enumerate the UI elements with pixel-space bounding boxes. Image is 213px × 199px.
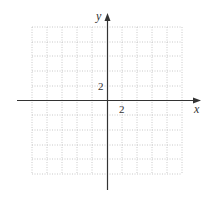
y-tick-label: 2 [98, 80, 104, 92]
y-axis-arrow-icon [105, 13, 111, 21]
coordinate-plane: x y 2 2 [0, 0, 213, 199]
y-axis-label: y [95, 9, 102, 23]
x-axis [17, 98, 201, 104]
y-axis [105, 13, 111, 190]
x-axis-label: x [193, 102, 200, 116]
x-tick-label: 2 [119, 103, 125, 115]
